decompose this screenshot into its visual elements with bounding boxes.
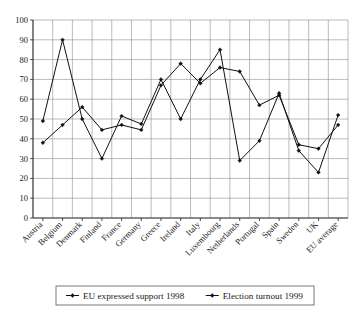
data-point-marker bbox=[139, 128, 143, 132]
data-point-marker bbox=[179, 117, 183, 121]
y-axis-tick-label: 10 bbox=[20, 193, 29, 203]
y-axis-tick-label: 70 bbox=[20, 74, 29, 84]
chart-legend: EU expressed support 1998Election turnou… bbox=[56, 286, 314, 305]
y-axis-tick-label: 50 bbox=[20, 114, 29, 124]
x-axis-tick-label: Greece bbox=[138, 219, 162, 243]
x-axis-tick-label: Ireland bbox=[158, 219, 183, 244]
x-axis-tick-label: Finland bbox=[78, 219, 104, 245]
data-point-marker bbox=[80, 117, 84, 121]
y-axis-tick-label: 20 bbox=[20, 173, 29, 183]
x-axis-tick-label: Sweden bbox=[274, 219, 301, 246]
y-axis-tick-label: 80 bbox=[20, 55, 29, 65]
data-point-marker bbox=[139, 122, 143, 126]
data-point-marker bbox=[61, 38, 65, 42]
data-point-marker bbox=[336, 113, 340, 117]
data-point-marker bbox=[120, 123, 124, 127]
chart-container: 0102030405060708090100 AustriaBelgiumDen… bbox=[0, 0, 364, 322]
data-point-marker bbox=[41, 119, 45, 123]
data-point-marker bbox=[159, 78, 163, 82]
legend-entry[interactable]: EU expressed support 1998 bbox=[66, 291, 185, 301]
y-axis-tick-label: 0 bbox=[24, 213, 28, 223]
y-axis-tick-label: 90 bbox=[20, 35, 29, 45]
legend-entry-label: Election turnout 1999 bbox=[223, 291, 304, 301]
data-point-marker bbox=[120, 114, 124, 118]
line-chart: 0102030405060708090100 AustriaBelgiumDen… bbox=[0, 0, 364, 322]
y-axis-tick-label: 30 bbox=[20, 154, 29, 164]
data-point-marker bbox=[100, 157, 104, 161]
axes-layer bbox=[30, 20, 348, 221]
y-axis-tick-label: 60 bbox=[20, 94, 29, 104]
ytick-labels: 0102030405060708090100 bbox=[15, 15, 28, 223]
xtick-labels: AustriaBelgiumDenmarkFinlandFranceGerman… bbox=[19, 219, 339, 258]
legend-entry-label: EU expressed support 1998 bbox=[83, 291, 185, 301]
y-axis-tick-label: 40 bbox=[20, 134, 29, 144]
y-axis-tick-label: 100 bbox=[15, 15, 28, 25]
